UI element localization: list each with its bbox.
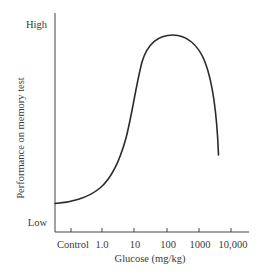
x-tick-label-1000: 1000 (190, 239, 211, 251)
y-axis-low-label: Low (7, 217, 47, 229)
x-axis-title: Glucose (mg/kg) (115, 253, 186, 264)
x-axis-ticks (71, 228, 231, 232)
performance-curve (55, 35, 219, 204)
x-tick-label-control: Control (57, 239, 89, 251)
chart-canvas (0, 0, 259, 277)
x-tick-label-10: 10 (130, 239, 141, 251)
x-tick-label-100: 100 (160, 239, 176, 251)
x-tick-label-1: 1.0 (95, 239, 108, 251)
y-axis-high-label: High (7, 19, 47, 31)
y-axis-title: Performance on memory test (15, 77, 26, 199)
x-tick-label-10000: 10,000 (219, 239, 248, 251)
